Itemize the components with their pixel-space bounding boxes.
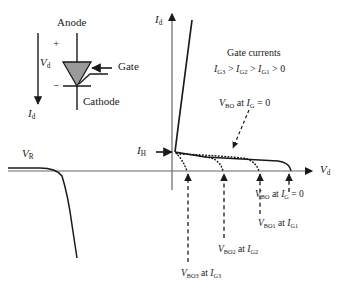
- cathode-label: Cathode: [83, 96, 120, 107]
- vd-inset-label: Vd: [40, 57, 50, 68]
- id-inset-label: Id: [28, 108, 35, 119]
- negative-resistance-ig3: [176, 153, 187, 171]
- gate-label: Gate: [118, 61, 139, 72]
- anode-label: Anode: [57, 17, 86, 28]
- plus-sign-label: +: [53, 38, 59, 49]
- breakover-label-vbo0: VBO at IG = 0: [255, 190, 304, 200]
- reverse-breakdown-curve: [8, 168, 77, 258]
- breakover-label-vbo1: VBO1 at IG1: [258, 219, 298, 229]
- x-axis-label: Vd: [320, 164, 330, 175]
- vbo-callout-leader: [233, 110, 249, 148]
- minus-sign-label: −: [53, 80, 59, 91]
- gate-currents-title: Gate currents: [227, 48, 281, 58]
- holding-current-label: IH: [137, 145, 146, 156]
- gate-currents-inequality: IG3 > IG2 > IG1 > 0: [214, 64, 285, 74]
- y-axis-label: Id: [155, 14, 162, 25]
- reverse-breakdown-label: VR: [22, 148, 34, 159]
- breakover-label-vbo2: VBO2 at IG2: [218, 245, 258, 255]
- on-state-branch: [175, 20, 192, 152]
- scr-triangle: [63, 62, 91, 86]
- breakover-label-vbo3: VBO3 at IG3: [181, 269, 221, 279]
- negative-resistance-ig1: [180, 154, 259, 171]
- vbo-callout-label: VBO at IG = 0: [219, 98, 270, 108]
